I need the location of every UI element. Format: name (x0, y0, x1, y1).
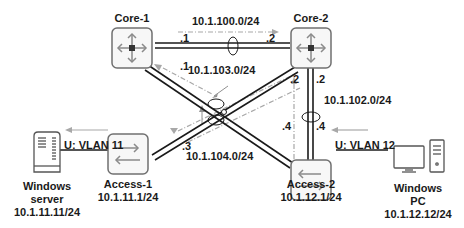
host-core1-core2-c2: .2 (266, 32, 275, 44)
pc-label-line1: Windows (394, 182, 442, 194)
flow-arrow-to-server (65, 127, 72, 133)
core2-label: Core-2 (294, 12, 329, 24)
server-device[interactable] (34, 132, 60, 172)
server-icon (34, 132, 60, 172)
host-core2-access2-c2: .2 (316, 73, 325, 85)
access2-label: Access-2 (287, 178, 335, 190)
host-core2-access1-c2: .2 (290, 73, 299, 85)
vlan-label-pc: U: VLAN 12 (335, 139, 395, 151)
pc-ip: 10.1.12.12/24 (384, 208, 451, 220)
server-label-line2: server (30, 193, 63, 205)
access2-ip: 10.1.12.1/24 (280, 191, 341, 203)
server-ip: 10.1.11.11/24 (14, 206, 80, 218)
server-label-line1: Windows (23, 180, 71, 192)
host-core1-access2-a2: .4 (282, 120, 291, 132)
host-core1-core2-c1: .1 (180, 32, 189, 44)
core1-device[interactable] (112, 28, 152, 68)
link-core1-access2 (148, 65, 293, 163)
access1-label: Access-1 (104, 178, 152, 190)
subnet-core1-access2: 10.1.103.0/24 (188, 64, 255, 76)
flow-arrow-to-access2 (331, 127, 338, 133)
pc-device[interactable] (394, 140, 444, 172)
access1-ip: 10.1.11.1/24 (98, 191, 159, 203)
desktop-pc-icon (394, 140, 444, 172)
link-crossing (222, 110, 227, 115)
vlan-label-server: U: VLAN 11 (64, 139, 123, 151)
subnet-core2-access1: 10.1.104.0/24 (186, 150, 253, 162)
core2-device[interactable] (291, 28, 331, 68)
core1-label: Core-1 (115, 12, 150, 24)
lag-ellipse-core1-access2 (208, 99, 224, 109)
subnet-core2-access2: 10.1.102.0/24 (324, 94, 391, 106)
pc-label-line2: PC (410, 195, 425, 207)
subnet-core1-core2: 10.1.100.0/24 (192, 15, 259, 27)
flow-arrow-access1-core2-b (188, 88, 300, 142)
host-core2-access2-a2: .4 (316, 120, 325, 132)
lag-ellipse-core1-core2 (228, 37, 238, 55)
